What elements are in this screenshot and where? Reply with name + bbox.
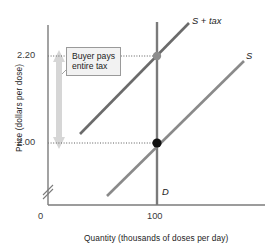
tax-span-arrow (53, 50, 65, 149)
supply-curve (107, 61, 244, 196)
supply-with-tax-label: S + tax (192, 15, 221, 26)
callout-line-1: Buyer pays (72, 51, 115, 61)
origin-label: 0 (38, 211, 43, 221)
x-axis-title: Quantity (thousands of doses per day) (84, 233, 228, 243)
supply-demand-tax-figure: Price (dollars per dose) Quantity (thous… (0, 0, 274, 248)
y-tick-label-220: 2.20 (17, 50, 35, 60)
x-tick-label-100: 100 (147, 211, 163, 221)
equilibrium-dot-no-tax (152, 138, 161, 147)
equilibrium-dot-with-tax (153, 52, 161, 60)
y-axis-title: Price (dollars per dose) (14, 48, 24, 168)
callout-line-2: entire tax (72, 61, 115, 71)
supply-label: S (246, 50, 252, 61)
buyer-pays-callout: Buyer pays entire tax (66, 47, 121, 76)
demand-label: D (162, 186, 169, 197)
supply-with-tax-curve (80, 23, 189, 134)
y-tick-label-200: 2.00 (17, 137, 35, 147)
